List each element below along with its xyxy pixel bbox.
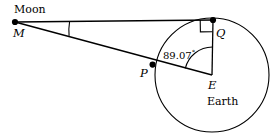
vertex-dot-p [150,62,156,68]
point-label-m: M [13,28,25,40]
vertex-dot-m [12,19,18,25]
segment-moon-to-q [15,20,213,22]
point-label-q: Q [216,28,225,40]
point-label-p: P [140,68,148,80]
segment-moon-to-earth-center [15,22,212,75]
right-angle-marker-at-q [200,20,212,32]
degree-symbol: ° [192,49,196,57]
angle-measure-value: 89.07 [163,50,192,61]
earth-label: Earth [207,96,238,107]
vertex-dot-q [210,17,216,23]
angle-arc-at-m [69,22,70,36]
point-label-e: E [208,80,216,92]
earth-moon-geometry-figure: Moon M Q P E Earth 89.07° [0,0,279,135]
angle-measure-label: 89.07° [163,50,195,61]
moon-label: Moon [14,4,46,15]
